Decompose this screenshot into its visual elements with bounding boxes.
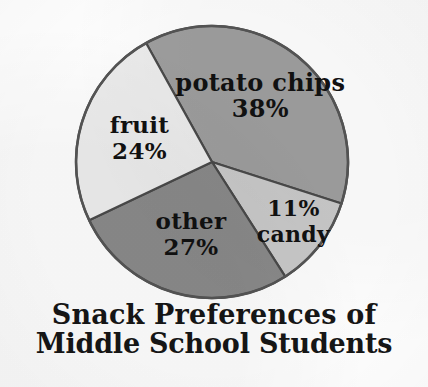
pie-label-fruit-value: 24% [112,137,167,164]
chart-title-line-2: Middle School Students [0,329,428,358]
pie-chart-screenshot: potato chips 38% 11% candy other 27% fru… [0,0,428,387]
pie-label-fruit-name: fruit [110,111,170,138]
pie-chart-figure: potato chips 38% 11% candy other 27% fru… [0,0,428,310]
chart-title-line-1: Snack Preferences of [0,300,428,329]
pie-chart-svg: potato chips 38% 11% candy other 27% fru… [0,0,428,310]
chart-title: Snack Preferences of Middle School Stude… [0,300,428,358]
pie-label-candy-value: 11% [267,195,319,221]
pie-label-potato-chips-value: 38% [232,94,289,123]
pie-label-candy-name: candy [257,221,331,247]
pie-label-other-name: other [156,207,228,234]
pie-label-other-value: 27% [164,233,219,260]
pie-label-potato-chips-name: potato chips [175,68,345,97]
